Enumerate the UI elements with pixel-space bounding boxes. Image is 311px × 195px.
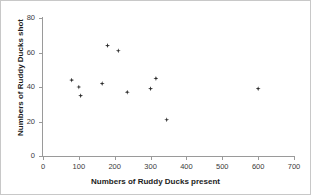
x-axis-tick	[43, 156, 44, 160]
x-axis-tick	[186, 156, 187, 160]
x-axis-tick	[79, 156, 80, 160]
x-axis-tick	[294, 156, 295, 160]
x-axis-line	[42, 156, 295, 157]
x-axis-tick-label: 200	[100, 163, 130, 171]
y-axis-tick-label: 0	[5, 152, 35, 160]
y-axis-title: Numbers of Ruddy Ducks shot	[16, 8, 25, 148]
x-axis-tick-label: 600	[243, 163, 273, 171]
x-axis-tick-label: 0	[28, 163, 58, 171]
scatter-chart-figure: 0204060800100200300400500600700 Numbers …	[0, 0, 311, 195]
x-axis-title: Numbers of Ruddy Ducks present	[1, 177, 310, 186]
x-axis-tick-label: 300	[136, 163, 166, 171]
x-axis-tick-label: 100	[64, 163, 94, 171]
x-axis-tick	[115, 156, 116, 160]
x-axis-tick-label: 500	[207, 163, 237, 171]
x-axis-tick	[151, 156, 152, 160]
x-axis-tick	[258, 156, 259, 160]
x-axis-tick	[222, 156, 223, 160]
x-axis-tick-label: 700	[279, 163, 309, 171]
x-axis-tick-label: 400	[171, 163, 201, 171]
